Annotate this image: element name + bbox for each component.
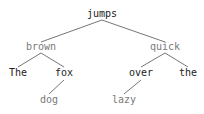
tree-edges xyxy=(18,20,188,94)
tree-node-fox: fox xyxy=(55,67,73,78)
tree-edge-jumps-brown xyxy=(41,20,102,42)
tree-node-quick: quick xyxy=(150,41,180,52)
tree-edge-over-lazy xyxy=(124,80,141,94)
tree-edge-quick-the xyxy=(165,53,188,67)
tree-node-brown: brown xyxy=(26,41,56,52)
tree-node-the: the xyxy=(179,67,197,78)
tree-edge-quick-over xyxy=(141,53,165,67)
tree-edge-jumps-quick xyxy=(102,20,165,42)
tree-diagram: jumpsbrownquickThefoxoverthedoglazy xyxy=(0,0,204,114)
tree-edge-fox-dog xyxy=(49,80,64,94)
tree-nodes: jumpsbrownquickThefoxoverthedoglazy xyxy=(9,8,197,105)
tree-node-dog: dog xyxy=(40,94,58,105)
tree-node-jumps: jumps xyxy=(87,8,117,19)
tree-node-The: The xyxy=(9,67,27,78)
tree-node-lazy: lazy xyxy=(112,94,136,105)
tree-node-over: over xyxy=(129,67,153,78)
tree-edge-brown-The xyxy=(18,53,41,67)
tree-edge-brown-fox xyxy=(41,53,64,67)
